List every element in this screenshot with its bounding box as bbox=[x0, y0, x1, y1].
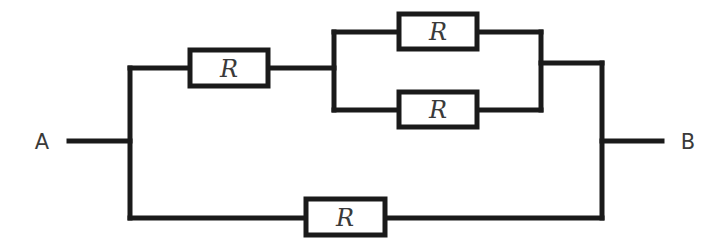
terminal-a-label: A bbox=[35, 130, 50, 154]
terminal-b-label: B bbox=[681, 130, 695, 154]
resistor-series-top: R bbox=[190, 50, 268, 86]
resistor-parallel-upper: R bbox=[399, 14, 477, 49]
circuit-diagram: R R R R A B bbox=[0, 0, 714, 251]
resistor-label: R bbox=[428, 18, 447, 46]
resistor-label: R bbox=[335, 204, 354, 232]
resistor-label: R bbox=[219, 55, 238, 83]
resistor-bottom: R bbox=[306, 199, 385, 235]
resistor-label: R bbox=[428, 96, 447, 124]
resistor-parallel-lower: R bbox=[399, 92, 477, 127]
